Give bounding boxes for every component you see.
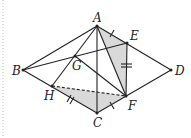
point-e	[126, 42, 129, 45]
label-a: A	[92, 11, 102, 25]
point-c	[96, 112, 99, 115]
label-g: G	[72, 59, 82, 73]
label-f: F	[127, 99, 137, 113]
point-d	[170, 69, 173, 72]
label-h: H	[43, 89, 55, 103]
label-b: B	[11, 64, 21, 78]
segment-ab	[23, 26, 97, 70]
label-e: E	[129, 29, 139, 43]
point-h	[51, 85, 54, 88]
label-c: C	[93, 116, 102, 130]
point-b	[22, 69, 25, 72]
point-f	[125, 95, 128, 98]
point-g	[74, 55, 77, 58]
label-d: D	[174, 64, 185, 78]
geometry-diagram: A B C D E F G H	[0, 0, 191, 138]
